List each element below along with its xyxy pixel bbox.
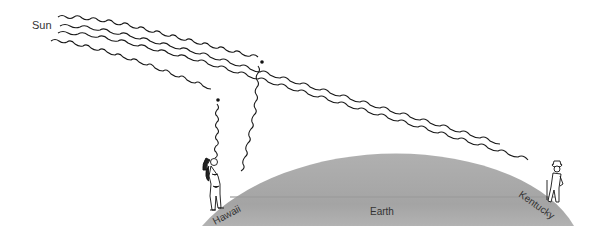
reflection-dot-2: [216, 98, 220, 102]
wave-3: [58, 32, 528, 161]
sun-label: Sun: [32, 19, 52, 31]
diagram-canvas: Sun Hawaii Earth Kentucky: [0, 0, 590, 236]
reflection-dot-1: [260, 60, 264, 64]
earth-label: Earth: [370, 206, 394, 217]
kentucky-person-icon: [547, 161, 563, 202]
wave-down-2: [215, 104, 219, 158]
sun-waves: [51, 16, 528, 172]
wave-4: [51, 40, 211, 90]
wave-down-1: [241, 66, 260, 171]
hawaii-person-icon: [203, 158, 224, 210]
